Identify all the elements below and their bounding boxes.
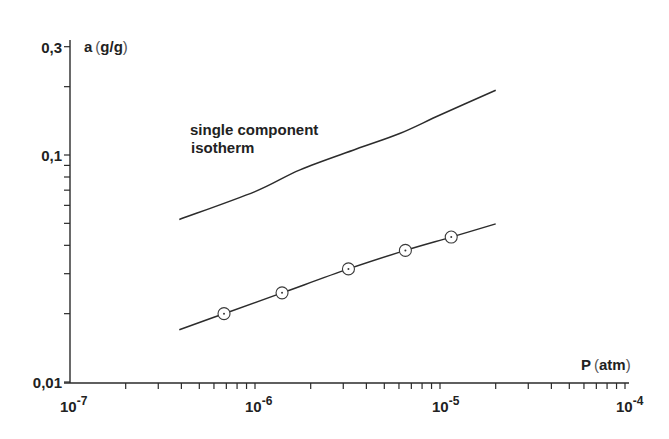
data-point-marker xyxy=(399,244,411,256)
y-axis-ticks xyxy=(64,47,70,382)
isotherm-chart: 0,3 0,1 0,01 10-7 10-6 10-5 10-4 a(g/g) … xyxy=(0,0,669,439)
y-tick-label-0-01: 0,01 xyxy=(33,374,62,391)
x-axis-ticks xyxy=(126,383,625,389)
data-point-marker xyxy=(342,263,354,275)
x-tick-label-1e-4: 10-4 xyxy=(616,394,644,415)
data-point-marker xyxy=(218,308,230,320)
data-point-marker xyxy=(276,287,288,299)
x-tick-label-1e-5: 10-5 xyxy=(432,394,460,415)
y-tick-labels: 0,3 0,1 0,01 xyxy=(33,39,62,391)
y-tick-label-0-1: 0,1 xyxy=(41,147,62,164)
data-markers xyxy=(218,231,457,320)
y-axis-title: a(g/g) xyxy=(84,38,128,55)
x-tick-label-1e-7: 10-7 xyxy=(60,394,88,415)
curve-annotation-line2: isotherm xyxy=(191,139,254,156)
data-point-marker xyxy=(445,231,457,243)
x-tick-labels: 10-7 10-6 10-5 10-4 xyxy=(60,394,644,415)
axes xyxy=(64,40,629,383)
curve-annotation-line1: single component xyxy=(190,121,318,138)
y-tick-label-0-3: 0,3 xyxy=(41,39,62,56)
x-tick-label-1e-6: 10-6 xyxy=(245,394,273,415)
x-axis-title: P(atm) xyxy=(581,356,631,373)
